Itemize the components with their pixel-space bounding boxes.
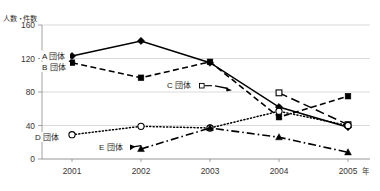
- data-point-d-1: [138, 123, 144, 129]
- x-tick-label-2001: 2001: [63, 166, 82, 176]
- y-tick-label-120: 120: [21, 54, 35, 64]
- series-label-d: D 団体: [35, 132, 59, 142]
- series-label-e-arrow: [130, 145, 136, 151]
- series-line-e: [141, 128, 348, 152]
- x-tick-label-2004: 2004: [270, 166, 289, 176]
- series-label-c-marker: [200, 83, 205, 88]
- series-label-e: E 団体: [99, 142, 123, 152]
- data-point-d-4: [345, 122, 351, 128]
- chart-plot-area: 160 120 80 40 0 2001 2002 2003 2004 2005…: [0, 0, 380, 191]
- series-label-c-arrow: [226, 88, 232, 92]
- data-point-b-2: [207, 59, 213, 65]
- data-point-e-2: [276, 134, 283, 140]
- series-line-b: [72, 62, 348, 117]
- data-point-b-3: [276, 114, 282, 120]
- series-inline-labels: A 団体 B 団体 C 団体 D 団体 E 団体: [34, 51, 232, 152]
- series-layer: [68, 37, 351, 155]
- data-point-b-4: [345, 93, 351, 99]
- y-tick-label-0: 0: [30, 154, 35, 164]
- data-point-a-1: [137, 37, 144, 44]
- x-tick-label-2005: 2005: [339, 166, 358, 176]
- data-point-b-0: [69, 60, 75, 66]
- series-label-c-leader-2: [215, 86, 228, 89]
- x-axis-unit-label: 年: [362, 166, 370, 176]
- gridlines: [42, 25, 370, 126]
- y-tick-label-80: 80: [26, 87, 36, 97]
- y-tick-label-40: 40: [26, 121, 36, 131]
- series-label-b: B 団体: [42, 62, 66, 72]
- y-tick-label-160: 160: [21, 20, 35, 30]
- data-point-c-0: [276, 90, 282, 96]
- data-point-d-3: [276, 108, 282, 114]
- x-tick-label-2002: 2002: [132, 166, 151, 176]
- line-chart-figure: 人数・件数 160 120 80 40 0: [0, 0, 380, 191]
- series-line-a: [72, 41, 348, 127]
- data-point-d-0: [69, 132, 75, 138]
- series-label-a: A 団体: [42, 51, 65, 61]
- data-point-b-1: [138, 75, 144, 81]
- x-tick-label-2003: 2003: [201, 166, 220, 176]
- series-line-c: [279, 93, 348, 125]
- series-label-c: C 団体: [167, 80, 191, 90]
